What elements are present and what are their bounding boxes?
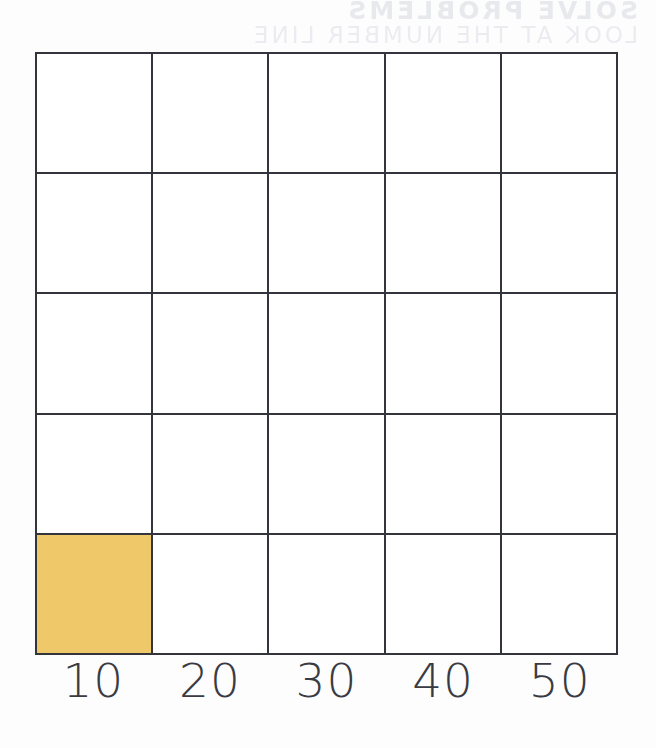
grid-cell-r1c2[interactable] — [152, 53, 268, 173]
grid-cell-r3c3[interactable] — [268, 293, 384, 413]
axis-label-3: 30 — [268, 657, 385, 704]
page-bleed-through: SOLVE PROBLEMS LOOK AT THE NUMBER LINE — [0, 0, 656, 52]
grid-figure — [35, 52, 618, 655]
grid-cell-r2c4[interactable] — [385, 173, 501, 293]
grid-cell-r1c1[interactable] — [36, 53, 152, 173]
grid-cell-r4c4[interactable] — [385, 414, 501, 534]
grid-cell-r4c1[interactable] — [36, 414, 152, 534]
grid-cell-r1c4[interactable] — [385, 53, 501, 173]
grid-cell-r4c5[interactable] — [501, 414, 617, 534]
axis-label-2: 20 — [152, 657, 269, 704]
grid-cell-r5c4[interactable] — [385, 534, 501, 654]
axis-label-4: 40 — [385, 657, 502, 704]
grid-row — [36, 414, 617, 534]
axis-label-1: 10 — [35, 657, 152, 704]
grid-cell-r1c5[interactable] — [501, 53, 617, 173]
grid-cell-r3c1[interactable] — [36, 293, 152, 413]
axis-label-row: 10 20 30 40 50 — [35, 657, 618, 704]
grid-cell-r2c5[interactable] — [501, 173, 617, 293]
grid-body — [36, 53, 617, 654]
grid-row — [36, 173, 617, 293]
axis-label-5: 50 — [501, 657, 618, 704]
grid-cell-r5c1[interactable] — [36, 534, 152, 654]
grid-cell-r3c2[interactable] — [152, 293, 268, 413]
grid-cell-r4c2[interactable] — [152, 414, 268, 534]
grid-row — [36, 534, 617, 654]
bleed-through-line-1: SOLVE PROBLEMS — [18, 0, 638, 25]
grid-cell-r1c3[interactable] — [268, 53, 384, 173]
bleed-through-line-2: LOOK AT THE NUMBER LINE — [18, 22, 638, 48]
grid-cell-r5c5[interactable] — [501, 534, 617, 654]
grid-cell-r2c1[interactable] — [36, 173, 152, 293]
grid-cell-r2c2[interactable] — [152, 173, 268, 293]
grid-cell-r5c3[interactable] — [268, 534, 384, 654]
grid-row — [36, 53, 617, 173]
grid-cell-r3c5[interactable] — [501, 293, 617, 413]
grid-row — [36, 293, 617, 413]
grid-cell-r4c3[interactable] — [268, 414, 384, 534]
grid-cell-r2c3[interactable] — [268, 173, 384, 293]
grid-cell-r3c4[interactable] — [385, 293, 501, 413]
grid-cell-r5c2[interactable] — [152, 534, 268, 654]
grid-table — [35, 52, 618, 655]
